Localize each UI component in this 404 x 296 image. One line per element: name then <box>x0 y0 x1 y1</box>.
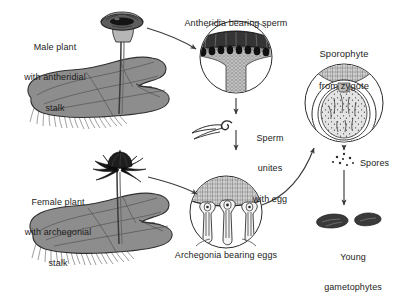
female-plant-label-line3: stalk <box>6 258 110 268</box>
archegonia-label: Archegonia bearing eggs <box>146 250 306 260</box>
young-gametophytes-label-line1: Young <box>305 252 401 262</box>
spores-label: Spores <box>360 158 404 168</box>
male-plant-label: Male plant with antheridial stalk <box>6 22 104 133</box>
sporophyte-label-line2: from zygote <box>300 81 388 92</box>
fertilization-label-line2: unites <box>241 163 299 173</box>
sporophyte-label-line1: Sporophyte <box>300 49 388 60</box>
female-plant-label-line1: Female plant <box>6 197 110 207</box>
female-plant-label: Female plant with archegonial stalk <box>6 177 110 288</box>
male-plant-label-line1: Male plant <box>6 42 104 52</box>
young-gametophytes-label: Young gametophytes <box>305 232 401 296</box>
antheridia-label: Antheridia bearing sperm <box>156 18 316 28</box>
fertilization-label-line1: Sperm <box>241 133 299 143</box>
male-plant-label-line3: stalk <box>6 103 104 113</box>
young-gametophytes-label-line2: gametophytes <box>305 282 401 292</box>
fertilization-label: Sperm unites with egg <box>241 113 299 224</box>
fertilization-label-line3: with egg <box>241 194 299 204</box>
male-plant-label-line2: with antheridial <box>6 72 104 82</box>
sporophyte-label: Sporophyte from zygote <box>300 28 388 112</box>
female-plant-label-line2: with archegonial <box>6 227 110 237</box>
